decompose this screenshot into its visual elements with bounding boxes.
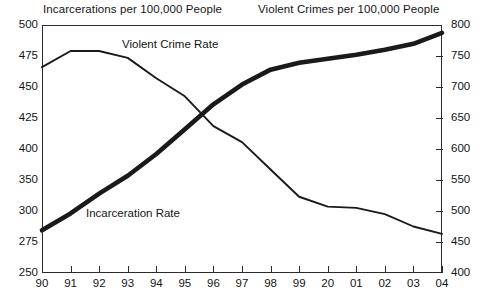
x-axis-tickmark: [299, 266, 300, 273]
x-axis-tick-01: 01: [344, 277, 368, 289]
x-axis-tickmark: [385, 266, 386, 273]
left-axis-tick-275: 275: [8, 235, 38, 247]
x-axis-tickmark: [442, 266, 443, 273]
x-axis-tick-97: 97: [230, 277, 254, 289]
x-axis-tick-91: 91: [59, 277, 83, 289]
x-axis-tickmark: [128, 266, 129, 273]
right-axis-tick-550: 550: [451, 173, 485, 185]
x-axis-tickmark: [271, 266, 272, 273]
x-axis-tickmark: [156, 266, 157, 273]
x-axis-tick-99: 99: [287, 277, 311, 289]
right-axis-tick-750: 750: [451, 49, 485, 61]
x-axis-tick-03: 03: [401, 277, 425, 289]
x-axis-tickmark: [99, 266, 100, 273]
x-axis-tick-98: 98: [259, 277, 283, 289]
right-axis-tickmark: [436, 211, 443, 212]
series-label-incarceration-rate: Incarceration Rate: [86, 207, 180, 219]
left-axis-tick-350: 350: [8, 173, 38, 185]
x-axis-tick-20: 20: [316, 277, 340, 289]
series-line-incarceration-rate: [42, 33, 442, 230]
left-axis-tick-475: 475: [8, 49, 38, 61]
right-axis-tickmark: [436, 242, 443, 243]
left-axis-tick-400: 400: [8, 142, 38, 154]
right-axis-title: Violent Crimes per 100,000 People: [258, 3, 439, 15]
left-axis-title: Incarcerations per 100,000 People: [43, 3, 222, 15]
right-axis-tick-400: 400: [451, 266, 485, 278]
right-axis-tickmark: [436, 149, 443, 150]
right-axis-tick-600: 600: [451, 142, 485, 154]
left-axis-tick-300: 300: [8, 204, 38, 216]
x-axis-tickmark: [71, 266, 72, 273]
right-axis-tickmark: [436, 56, 443, 57]
right-axis-tickmark: [436, 180, 443, 181]
right-axis-tick-650: 650: [451, 111, 485, 123]
series-label-violent-crime-rate: Violent Crime Rate: [122, 38, 218, 50]
right-axis-tickmark: [436, 87, 443, 88]
x-axis-tickmark: [42, 266, 43, 273]
right-axis-tick-450: 450: [451, 235, 485, 247]
x-axis-tick-95: 95: [173, 277, 197, 289]
right-axis-tick-500: 500: [451, 204, 485, 216]
x-axis-tick-93: 93: [116, 277, 140, 289]
x-axis-tickmark: [413, 266, 414, 273]
x-axis-tickmark: [328, 266, 329, 273]
x-axis-tick-96: 96: [201, 277, 225, 289]
x-axis-tickmark: [213, 266, 214, 273]
x-axis-tick-94: 94: [144, 277, 168, 289]
left-axis-tick-425: 425: [8, 111, 38, 123]
x-axis-tickmark: [185, 266, 186, 273]
x-axis-tick-02: 02: [373, 277, 397, 289]
x-axis-tick-90: 90: [30, 277, 54, 289]
left-axis-tick-450: 450: [8, 80, 38, 92]
right-axis-tickmark: [436, 118, 443, 119]
x-axis-tick-92: 92: [87, 277, 111, 289]
left-axis-tick-500: 500: [8, 18, 38, 30]
x-axis-tick-04: 04: [430, 277, 454, 289]
right-axis-tick-800: 800: [451, 18, 485, 30]
right-axis-tick-700: 700: [451, 80, 485, 92]
plot-lines: [42, 25, 442, 273]
x-axis-tickmark: [242, 266, 243, 273]
x-axis-tickmark: [356, 266, 357, 273]
chart-figure: Incarcerations per 100,000 People Violen…: [0, 0, 491, 303]
